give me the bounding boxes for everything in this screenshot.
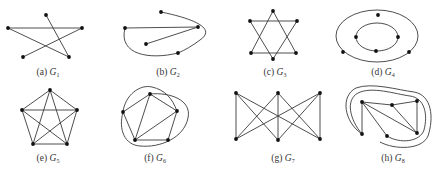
graph-panel-h: (h) G8 [346,86,431,164]
edge [22,110,67,144]
edge [67,110,77,144]
graph-panel-a: (a) G1 [6,13,84,78]
edge [50,90,67,144]
panel-caption: (e) G5 [37,153,60,164]
edge [22,90,50,110]
vertex [6,26,10,30]
vertex [166,138,170,142]
cycle-ellipse [356,23,398,51]
vertex [123,26,127,30]
graph-panel-c: (c) G3 [248,9,299,78]
curved-edge [121,94,188,147]
edge [33,90,50,144]
vertex [415,131,419,135]
vertex [133,138,137,142]
vertex [341,50,345,54]
vertex [407,50,411,54]
graph-panel-d: (d) G4 [336,10,418,78]
edge [362,102,387,136]
edge [168,111,177,140]
edge [125,27,198,28]
edge [123,112,135,140]
edge [33,110,77,144]
vertex [390,103,394,107]
vertex [318,137,322,141]
panel-caption: (a) G1 [37,67,60,78]
panel-caption: (b) G2 [156,67,179,78]
edge [392,105,417,133]
panel-caption: (d) G4 [371,67,394,78]
vertex [376,13,380,17]
vertex [276,138,280,142]
vertex [176,51,180,55]
vertex [20,108,24,112]
edge [273,11,296,53]
vertex [67,55,71,59]
vertex [175,109,179,113]
vertex [65,142,69,146]
vertex [75,108,79,112]
edge [251,11,273,53]
edge [135,94,150,140]
vertex [21,55,25,59]
vertex [249,51,253,55]
graph-panel-e: (e) G5 [20,88,79,164]
vertex [360,132,364,136]
edge [50,90,77,110]
vertex [385,134,389,138]
vertex [121,110,125,114]
vertex [234,137,238,141]
panel-caption: (h) G8 [381,153,404,164]
vertex [159,10,163,14]
graph-panel-b: (b) G2 [123,10,206,78]
panel-caption: (c) G3 [264,67,287,78]
edge [23,28,82,57]
vertex [354,35,358,39]
vertex [374,49,378,53]
vertex [31,142,35,146]
edge [135,111,177,140]
edge [146,27,198,44]
edge [123,94,150,112]
curved-edge [123,87,177,112]
curved-edge [161,12,206,53]
vertex [234,91,238,95]
graph-panel-g: (g) G7 [234,91,322,164]
vertex [271,9,275,13]
vertex [144,42,148,46]
vertex [196,25,200,29]
graph-figure: (a) G1(b) G2(c) G3(d) G4(e) G5(f) G6(g) … [0,0,441,172]
vertex [396,35,400,39]
vertex [295,19,299,23]
vertex [271,57,275,61]
edge [362,102,417,133]
vertex [318,91,322,95]
vertex [80,26,84,30]
vertex [360,100,364,104]
vertex [415,99,419,103]
vertex [44,13,48,17]
edge [392,101,417,105]
graph-panel-f: (f) G6 [121,87,188,164]
edge [8,28,69,57]
panel-caption: (g) G7 [271,153,294,164]
panel-caption: (f) G6 [144,153,166,164]
vertex [48,88,52,92]
vertex [294,51,298,55]
vertex [248,19,252,23]
cycle-ellipse [336,10,418,62]
vertex [148,92,152,96]
edge [22,110,33,144]
vertex [276,91,280,95]
